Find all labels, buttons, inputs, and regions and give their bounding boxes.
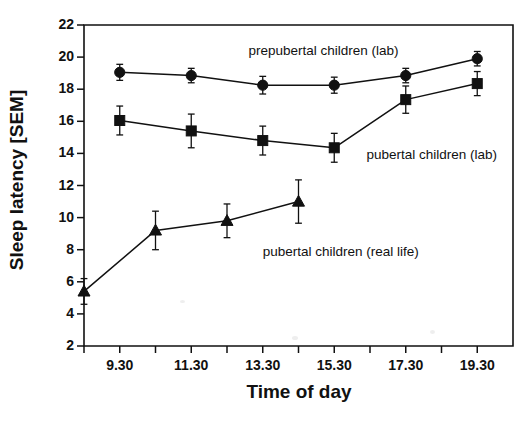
x-tick-label: 11.30 — [156, 357, 226, 373]
x-tick-label: 9.30 — [85, 357, 155, 373]
axis-ticks — [77, 25, 477, 353]
y-tick-label: 14 — [32, 144, 74, 160]
x-tick-label: 19.30 — [442, 357, 512, 373]
y-tick-label: 8 — [32, 241, 74, 257]
x-tick-label: 13.30 — [228, 357, 298, 373]
figure-canvas: 246810121416182022 9.3011.3013.3015.3017… — [0, 0, 531, 431]
y-tick-label: 22 — [32, 16, 74, 32]
y-tick-label: 16 — [32, 112, 74, 128]
scan-artifact — [292, 336, 298, 340]
y-tick-label: 12 — [32, 177, 74, 193]
y-tick-label: 6 — [32, 273, 74, 289]
scan-artifact — [180, 300, 185, 303]
y-tick-label: 10 — [32, 209, 74, 225]
x-tick-label: 17.30 — [371, 357, 441, 373]
scan-artifact — [430, 330, 435, 334]
series-label-triangle: pubertal children (real life) — [263, 244, 419, 259]
series-label-square: pubertal children (lab) — [366, 147, 497, 162]
x-tick-label: 15.30 — [299, 357, 369, 373]
y-axis-title-wrapper: Sleep latency [SEM] — [2, 30, 32, 330]
y-tick-label: 2 — [32, 337, 74, 353]
x-axis-title-wrapper: Time of day — [84, 381, 514, 403]
y-tick-label: 4 — [32, 305, 74, 321]
y-axis-title: Sleep latency [SEM] — [6, 90, 28, 271]
y-tick-label: 20 — [32, 48, 74, 64]
y-tick-label: 18 — [32, 80, 74, 96]
x-axis-title: Time of day — [246, 381, 351, 402]
data-series-group — [78, 51, 482, 304]
series-label-circle: prepubertal children (lab) — [248, 43, 398, 58]
